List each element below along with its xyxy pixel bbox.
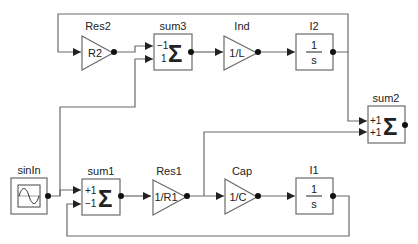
block-diagram-canvas: Res2 R2 sum3 −1 1 Σ Ind 1/L I2 1 s sum2 … — [0, 0, 418, 244]
sum3-port2-sign: 1 — [161, 53, 167, 64]
res2-label: Res2 — [85, 20, 111, 32]
sigma-icon: Σ — [168, 40, 182, 67]
sum3-label: sum3 — [160, 20, 187, 32]
res1-label: Res1 — [156, 165, 182, 177]
i2-numerator: 1 — [311, 39, 317, 51]
sum1-port1-sign: +1 — [85, 185, 97, 196]
sinin-label: sinIn — [17, 164, 40, 176]
res1-gain: 1/R1 — [154, 191, 177, 203]
wire-i2-to-sum2[interactable] — [348, 52, 367, 121]
i2-output-port[interactable] — [330, 49, 336, 55]
res1-output-port[interactable] — [184, 193, 190, 199]
sinin-output-port[interactable] — [45, 193, 51, 199]
block-res2[interactable]: Res2 R2 — [82, 20, 117, 70]
cap-label: Cap — [232, 165, 252, 177]
res2-output-port[interactable] — [111, 49, 117, 55]
sigma-icon: Σ — [98, 185, 112, 212]
cap-output-port[interactable] — [255, 193, 261, 199]
i1-label: I1 — [309, 164, 318, 176]
sum2-output-port[interactable] — [402, 122, 408, 128]
i1-denominator: s — [311, 198, 317, 210]
sum2-port1-sign: +1 — [370, 115, 382, 126]
res2-gain: R2 — [88, 47, 102, 59]
i1-numerator: 1 — [311, 183, 317, 195]
block-i2[interactable]: I2 1 s — [296, 20, 336, 70]
block-ind[interactable]: Ind 1/L — [224, 20, 261, 70]
cap-gain: 1/C — [229, 191, 246, 203]
block-sum1[interactable]: sum1 +1 −1 Σ — [82, 165, 124, 215]
i2-label: I2 — [309, 20, 318, 32]
wire-sinin-to-sum1[interactable] — [48, 190, 81, 196]
ind-output-port[interactable] — [255, 49, 261, 55]
i2-denominator: s — [311, 54, 317, 66]
sum1-output-port[interactable] — [118, 193, 124, 199]
ind-label: Ind — [234, 20, 249, 32]
block-sum2[interactable]: sum2 +1 +1 Σ — [368, 92, 408, 143]
sum2-label: sum2 — [373, 92, 400, 104]
i1-output-port[interactable] — [330, 193, 336, 199]
block-sum3[interactable]: sum3 −1 1 Σ — [154, 20, 194, 70]
sum1-label: sum1 — [88, 165, 115, 177]
wire-res2-to-sum3[interactable] — [114, 46, 153, 52]
sum2-port2-sign: +1 — [370, 127, 382, 138]
ind-gain: 1/L — [229, 47, 244, 59]
sigma-icon: Σ — [383, 113, 397, 140]
sum3-output-port[interactable] — [188, 49, 194, 55]
block-res1[interactable]: Res1 1/R1 — [153, 165, 190, 215]
block-cap[interactable]: Cap 1/C — [225, 165, 261, 214]
sum1-port2-sign: −1 — [85, 198, 97, 209]
block-sinin[interactable]: sinIn — [11, 164, 51, 214]
block-i1[interactable]: I1 1 s — [296, 164, 336, 214]
